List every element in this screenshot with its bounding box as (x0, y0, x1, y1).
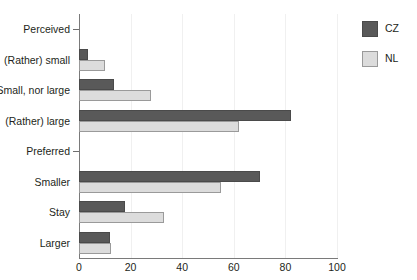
bar-nl (79, 212, 164, 223)
category-label: (Rather) small (4, 55, 70, 66)
bar-nl (79, 90, 151, 101)
bar-cz (79, 232, 110, 243)
category-label: Preferred (26, 146, 70, 157)
bar-cz (79, 79, 114, 90)
legend-item-cz[interactable]: CZ (362, 18, 399, 39)
category-label: (Rather) large (5, 116, 70, 127)
bar-chart: Perceived(Rather) smallSmall, nor large(… (0, 0, 417, 280)
chart-category-row: Perceived (79, 14, 337, 45)
x-tick-label: 40 (176, 262, 188, 273)
chart-category-row: Stay (79, 197, 337, 228)
chart-category-row: Preferred (79, 136, 337, 167)
plot-area: Perceived(Rather) smallSmall, nor large(… (79, 14, 337, 258)
chart-category-row: Smaller (79, 167, 337, 198)
category-label: Perceived (23, 24, 70, 35)
bar-cz (79, 201, 125, 212)
legend-swatch-nl-icon (362, 51, 378, 67)
legend-label-nl: NL (385, 53, 398, 64)
category-tick (73, 151, 79, 152)
category-label: Small, nor large (0, 85, 70, 96)
x-tick-label: 60 (228, 262, 240, 273)
category-tick (73, 29, 79, 30)
x-tick-label: 20 (125, 262, 137, 273)
bar-nl (79, 121, 239, 132)
bar-nl (79, 182, 221, 193)
category-label: Larger (40, 238, 70, 249)
x-axis-line (79, 258, 338, 259)
x-tick-label: 100 (328, 262, 346, 273)
chart-category-row: Small, nor large (79, 75, 337, 106)
x-tick-label: 80 (280, 262, 292, 273)
bar-cz (79, 49, 88, 60)
category-label: Stay (49, 207, 70, 218)
legend-label-cz: CZ (385, 23, 399, 34)
chart-category-row: (Rather) small (79, 45, 337, 76)
bar-nl (79, 243, 111, 254)
gridline (337, 14, 338, 258)
x-tick-label: 0 (76, 262, 82, 273)
chart-category-row: Larger (79, 228, 337, 259)
category-label: Smaller (34, 177, 70, 188)
bar-cz (79, 110, 291, 121)
chart-category-row: (Rather) large (79, 106, 337, 137)
legend-item-nl[interactable]: NL (362, 48, 399, 69)
legend-swatch-cz-icon (362, 21, 378, 37)
legend: CZ NL (362, 18, 399, 78)
bar-cz (79, 171, 260, 182)
bar-nl (79, 60, 105, 71)
